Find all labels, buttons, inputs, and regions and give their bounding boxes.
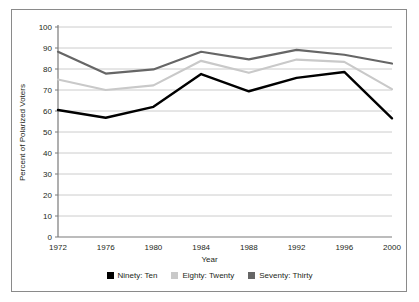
chart-legend: Ninety: TenEighty: TwentySeventy: Thirty [0,271,419,280]
chart-figure: 0102030405060708090100197219761980198419… [0,0,419,302]
legend-item-label: Ninety: Ten [118,271,158,280]
x-tick-label: 1988 [240,243,258,252]
x-tick-label: 1972 [49,243,67,252]
y-tick-label: 60 [43,107,52,116]
y-tick-label: 0 [48,233,53,242]
legend-swatch-light-gray-icon [171,272,178,279]
y-tick-label: 30 [43,170,52,179]
x-tick-label: 1980 [145,243,163,252]
x-tick-label: 1996 [335,243,353,252]
x-axis-label: Year [0,255,419,264]
x-tick-label: 1976 [97,243,115,252]
y-tick-label: 20 [43,191,52,200]
y-tick-label: 40 [43,149,52,158]
x-tick-label: 1992 [288,243,306,252]
y-tick-label: 10 [43,212,52,221]
legend-swatch-black-icon [107,272,114,279]
y-tick-label: 80 [43,65,52,74]
legend-item[interactable]: Seventy: Thirty [248,271,312,280]
legend-item-label: Eighty: Twenty [182,271,234,280]
y-tick-label: 90 [43,44,52,53]
series-line-eighty-twenty [58,60,392,90]
y-axis-label: Percent of Polarized Voters [18,78,27,188]
y-tick-label: 70 [43,86,52,95]
plot-area: 0102030405060708090100197219761980198419… [0,0,419,302]
x-tick-label: 1984 [192,243,210,252]
legend-item[interactable]: Eighty: Twenty [171,271,234,280]
y-tick-label: 100 [39,23,53,32]
y-tick-label: 50 [43,128,52,137]
legend-item[interactable]: Ninety: Ten [107,271,158,280]
legend-item-label: Seventy: Thirty [259,271,312,280]
x-tick-label: 2000 [383,243,401,252]
legend-swatch-dark-gray-icon [248,272,255,279]
